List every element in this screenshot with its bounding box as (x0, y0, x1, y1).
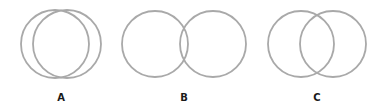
set-a-left-circle (21, 10, 89, 78)
set-b-left-circle (122, 11, 188, 77)
label-c: C (313, 93, 320, 103)
venn-set-a (21, 10, 101, 78)
set-a-right-circle (33, 10, 101, 78)
venn-set-b (122, 11, 246, 77)
set-b-right-circle (180, 11, 246, 77)
set-c-right-circle (300, 11, 366, 77)
label-b: B (180, 93, 188, 103)
label-a: A (57, 93, 65, 103)
venn-set-c (268, 11, 366, 77)
set-c-left-circle (268, 11, 334, 77)
